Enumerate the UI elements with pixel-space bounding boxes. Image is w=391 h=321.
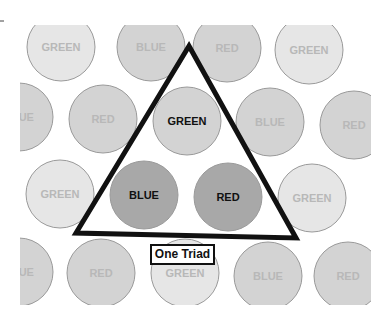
circle-blue: BLUE <box>0 238 53 306</box>
circle-red: RED <box>69 85 137 153</box>
circle-blue: BLUE <box>0 83 53 151</box>
circle-label: GREEN <box>167 115 206 127</box>
circle-label: BLUE <box>4 111 34 123</box>
triad-label: One Triad <box>150 244 215 265</box>
circle-blue: BLUE <box>234 242 302 310</box>
circle-red: RED <box>194 163 262 231</box>
circle-red: RED <box>67 239 135 307</box>
circle-label: RED <box>342 119 365 131</box>
circle-label: GREEN <box>165 267 204 279</box>
circle-red: RED <box>314 242 382 310</box>
circle-label: BLUE <box>253 270 283 282</box>
circle-label: GREEN <box>40 188 79 200</box>
circle-blue: BLUE <box>110 161 178 229</box>
circle-green: GREEN <box>275 16 343 84</box>
circle-red: RED <box>320 91 388 159</box>
circle-grid-canvas: GREENBLUEREDGREENBLUEREDGREENBLUEREDGREE… <box>0 0 391 321</box>
circle-label: GREEN <box>292 192 331 204</box>
circle-label: GREEN <box>289 44 328 56</box>
circle-label: RED <box>336 270 359 282</box>
circle-label: RED <box>216 191 239 203</box>
triad-diagram: GREENBLUEREDGREENBLUEREDGREENBLUEREDGREE… <box>0 0 391 321</box>
circle-label: BLUE <box>255 116 285 128</box>
circle-label: GREEN <box>41 41 80 53</box>
circle-green: GREEN <box>153 87 221 155</box>
circle-label: BLUE <box>4 266 34 278</box>
circle-green: GREEN <box>27 13 95 81</box>
circle-label: BLUE <box>129 189 159 201</box>
circle-label: RED <box>215 42 238 54</box>
circle-label: BLUE <box>136 41 166 53</box>
circle-label: RED <box>89 267 112 279</box>
circle-label: RED <box>91 113 114 125</box>
